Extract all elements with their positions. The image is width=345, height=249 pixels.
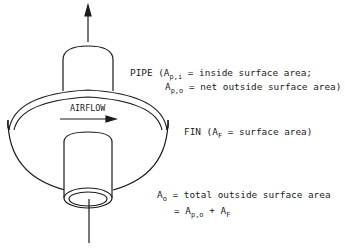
eq-sub1: p,o bbox=[191, 211, 204, 219]
pipe-outside-rest: = net outside surface area) bbox=[183, 81, 341, 92]
pipe-label-rest-i: = inside surface area; bbox=[182, 67, 312, 78]
fin-label-prefix: FIN (A bbox=[184, 126, 218, 137]
pipe-label-sub-i: p,i bbox=[170, 73, 183, 81]
outflow-arrowhead bbox=[85, 5, 91, 16]
pipe-label-prefix: PIPE (A bbox=[130, 67, 170, 78]
total-area-equation: = Ap,o + AF bbox=[174, 206, 230, 216]
airflow-arrowhead bbox=[106, 116, 116, 122]
lower-pipe-end-outer bbox=[64, 188, 112, 208]
fin-disk-edge bbox=[14, 97, 162, 130]
fin-label-sub: F bbox=[218, 132, 222, 140]
upper-pipe bbox=[63, 46, 113, 91]
eq-a: = A bbox=[174, 205, 191, 216]
fin-label: FIN (AF = surface area) bbox=[184, 127, 312, 137]
total-area-label: Ao = total outside surface area bbox=[157, 190, 331, 200]
pipe-outside-sub: p,o bbox=[171, 87, 184, 95]
fin-label-rest: = surface area) bbox=[222, 126, 312, 137]
finned-pipe-drawing bbox=[0, 0, 345, 249]
pipe-outside-label: Ap,o = net outside surface area) bbox=[165, 82, 341, 92]
total-sub: o bbox=[163, 195, 167, 203]
eq-plus: + A bbox=[204, 205, 227, 216]
pipe-outside-a: A bbox=[165, 81, 171, 92]
total-rest: = total outside surface area bbox=[167, 189, 331, 200]
airflow-label: AIRFLOW bbox=[70, 104, 105, 112]
pipe-label: PIPE (Ap,i = inside surface area; bbox=[130, 68, 312, 78]
total-a: A bbox=[157, 189, 163, 200]
eq-sub2: F bbox=[226, 211, 230, 219]
